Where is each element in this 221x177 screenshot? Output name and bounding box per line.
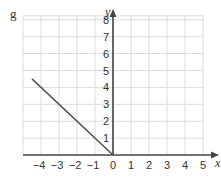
y-tick-label: 3 [103, 98, 109, 110]
x-tick-label: 1 [128, 159, 134, 171]
y-tick-label: 6 [103, 48, 109, 60]
x-tick-label: −1 [87, 159, 100, 171]
x-tick-label: 2 [146, 159, 152, 171]
x-tick-label: −4 [33, 159, 46, 171]
y-tick-label: 8 [103, 14, 109, 26]
x-axis-label: x [214, 156, 221, 170]
coordinate-grid-chart: xy−4−3−2−101234512345678 [0, 0, 221, 177]
y-axis-arrow-icon [110, 9, 117, 17]
axes [23, 9, 219, 159]
x-tick-label: −3 [51, 159, 64, 171]
x-tick-label: 0 [110, 159, 116, 171]
x-tick-label: 3 [164, 159, 170, 171]
y-tick-label: 4 [103, 81, 109, 93]
x-tick-label: 4 [182, 159, 188, 171]
y-tick-label: 7 [103, 31, 109, 43]
x-tick-label: −2 [69, 159, 82, 171]
y-tick-label: 2 [103, 115, 109, 127]
data-line [32, 79, 113, 155]
y-tick-label: 1 [103, 132, 109, 144]
y-tick-label: 5 [103, 65, 109, 77]
x-tick-label: 5 [200, 159, 206, 171]
